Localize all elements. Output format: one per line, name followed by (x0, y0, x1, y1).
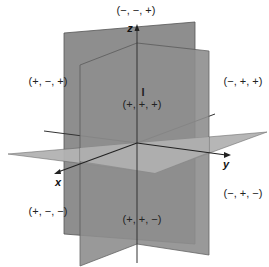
octant-label-pos-neg-pos: (+, −, +) (29, 75, 68, 87)
octant-roman-numeral: I (141, 86, 144, 98)
octant-label-pos-pos-pos: (+, +, +) (123, 98, 162, 110)
octant-label-neg-pos-pos: (−, +, +) (224, 75, 263, 87)
octant-label-pos-pos-neg: (+, +, −) (123, 213, 162, 225)
octant-label-neg-neg-pos: (−, −, +) (117, 4, 156, 16)
y-axis-label: y (223, 158, 229, 170)
x-axis-label: x (55, 176, 61, 188)
x-axis-arrowhead (54, 169, 61, 174)
octant-diagram: z x y I (−, −, +) (+, −, +) (−, +, +) (+… (0, 0, 269, 267)
z-axis-label: z (127, 22, 133, 34)
octant-label-pos-neg-neg: (+, −, −) (29, 205, 68, 217)
coordinate-planes-drawing (0, 0, 269, 267)
octant-label-neg-pos-neg: (−, +, −) (224, 187, 263, 199)
